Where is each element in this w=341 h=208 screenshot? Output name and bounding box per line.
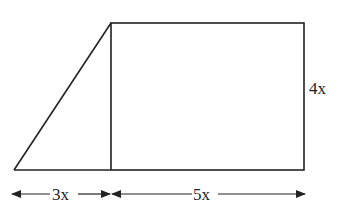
rectangle xyxy=(111,23,304,170)
trapezoid-diagram: 3x 5x 4x xyxy=(0,0,341,208)
label-4x: 4x xyxy=(309,79,327,98)
triangle-hypotenuse xyxy=(14,23,111,170)
label-3x: 3x xyxy=(52,185,70,204)
label-5x: 5x xyxy=(193,185,211,204)
